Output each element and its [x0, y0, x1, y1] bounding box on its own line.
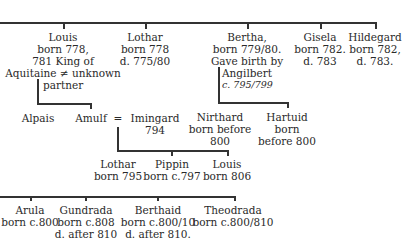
person-alpais: Alpais — [22, 112, 55, 124]
drop-pippin — [171, 150, 173, 156]
person-gundrada: Gundrada born c.808 d. after 810 — [55, 204, 117, 240]
bottom-connector — [0, 196, 235, 198]
person-angilbert: Angilbert c. 795/799 — [222, 67, 273, 91]
louis-partner-label: partner — [43, 79, 83, 91]
person-louis2: Louis born 806 — [203, 158, 251, 182]
drop-lothar — [145, 22, 147, 29]
amulf-children-bar — [117, 150, 228, 152]
bertha-descent — [218, 67, 220, 102]
person-imingard: Imingard 794 — [131, 112, 180, 136]
person-hildegard: Hildegard born 782, d. 783. — [348, 31, 402, 67]
drop-arula — [30, 196, 32, 201]
person-lothar2: Lothar born 795 — [94, 158, 142, 182]
drop-amulf — [90, 103, 92, 109]
drop-berthaid — [157, 196, 159, 201]
drop-hildegard — [375, 22, 377, 29]
person-gisela: Gisela born 782. d. 783 — [294, 31, 346, 67]
bertha-children-bar — [218, 102, 288, 104]
drop-gundrada — [85, 196, 87, 201]
louis-descent — [37, 79, 39, 103]
top-connector — [0, 22, 375, 24]
person-berthaid: Berthaid born c.800/10 d. after 810. — [121, 204, 195, 240]
drop-louis2 — [227, 150, 229, 156]
drop-gisela — [320, 22, 322, 29]
person-nirthard: Nirthard born before 800 — [189, 111, 252, 147]
drop-theodrada — [234, 196, 236, 201]
louis-children-bar — [37, 103, 91, 105]
drop-louis — [63, 22, 65, 29]
person-theodrada: Theodrada born c.800/810 — [192, 204, 273, 228]
person-pippin: Pippin born c.797 — [143, 158, 200, 182]
drop-hartuid — [287, 102, 289, 108]
person-hartuid: Hartuid born before 800 — [258, 111, 316, 147]
drop-bertha — [247, 22, 249, 29]
person-arula: Arula born c.800 — [1, 204, 58, 228]
amulf-descent — [117, 127, 119, 150]
person-louis: Louis born 778, 781 King of Aquitaine ≠ … — [5, 31, 120, 79]
person-lothar: Lothar born 778 d. 775/80 — [120, 31, 170, 67]
marriage-sign: = — [114, 112, 123, 124]
person-bertha: Bertha, born 779/80. Gave birth by — [211, 31, 283, 67]
person-amulf: Amulf — [75, 112, 107, 124]
